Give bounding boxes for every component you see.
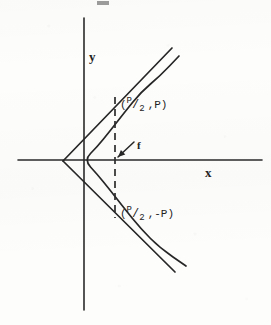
- upper-second-coord: P: [154, 100, 161, 111]
- focus-arrow: [118, 142, 134, 157]
- x-axis-label: x: [205, 166, 212, 179]
- lower-fraction: P/2: [127, 208, 145, 220]
- upper-numerator: P: [127, 97, 132, 106]
- lower-slash: /: [132, 208, 139, 220]
- lower-denominator: 2: [139, 214, 144, 223]
- lower-open-paren: (: [120, 209, 127, 220]
- lower-point-label: (P/2,-P): [120, 208, 174, 220]
- upper-point-label: (P/2,P): [120, 99, 167, 111]
- y-axis-label: y: [89, 50, 96, 63]
- upper-open-paren: (: [120, 100, 127, 111]
- upper-close-paren: ): [161, 100, 168, 111]
- upper-denominator: 2: [139, 105, 144, 114]
- parabola-figure: [0, 0, 271, 325]
- lower-numerator: P: [127, 206, 132, 215]
- focus-label: f: [137, 140, 141, 151]
- upper-fraction: P/2: [127, 99, 145, 111]
- figure-page: y x f (P/2,P) (P/2,-P): [0, 0, 271, 325]
- lower-comma: ,: [145, 209, 155, 220]
- upper-comma: ,: [145, 100, 155, 111]
- lower-second-coord: -P: [154, 209, 167, 220]
- lower-close-paren: ): [167, 209, 174, 220]
- upper-slash: /: [132, 99, 139, 111]
